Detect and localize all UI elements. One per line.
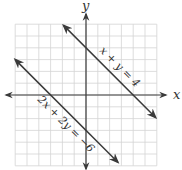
coordinate-plane: y x x + y = 4 2x + 2y = −6 (0, 0, 182, 170)
line2-label: 2x + 2y = −6 (34, 92, 97, 155)
y-axis-label: y (81, 0, 90, 13)
line-2x-plus-2y-eq-neg6 (15, 60, 118, 163)
x-axis-label: x (173, 87, 181, 102)
